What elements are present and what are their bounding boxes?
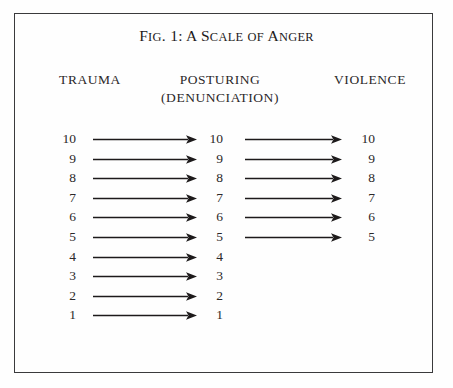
scale-row: 44 (0, 247, 453, 267)
trauma-value: 6 (54, 207, 76, 227)
arrow-posturing-to-violence (245, 188, 342, 208)
trauma-value: 5 (54, 227, 76, 247)
trauma-value: 8 (54, 168, 76, 188)
arrow-posturing-to-violence (245, 227, 342, 247)
posturing-value: 1 (201, 305, 223, 325)
posturing-value: 8 (201, 168, 223, 188)
arrow-trauma-to-posturing (93, 149, 197, 169)
trauma-value: 7 (54, 188, 76, 208)
arrow-posturing-to-violence (245, 168, 342, 188)
arrow-trauma-to-posturing (93, 129, 197, 149)
arrow-posturing-to-violence (245, 207, 342, 227)
arrow-trauma-to-posturing (93, 247, 197, 267)
arrow-trauma-to-posturing (93, 168, 197, 188)
arrow-trauma-to-posturing (93, 207, 197, 227)
scale-row: 11 (0, 305, 453, 325)
scale-row: 888 (0, 168, 453, 188)
arrow-posturing-to-violence (245, 129, 342, 149)
arrow-trauma-to-posturing (93, 286, 197, 306)
scale-row: 33 (0, 266, 453, 286)
posturing-value: 5 (201, 227, 223, 247)
posturing-value: 7 (201, 188, 223, 208)
scale-rows-container: 10101099988877766655544332211 (0, 0, 453, 388)
arrow-trauma-to-posturing (93, 188, 197, 208)
trauma-value: 9 (54, 149, 76, 169)
violence-value: 6 (353, 207, 375, 227)
trauma-value: 10 (54, 129, 76, 149)
trauma-value: 3 (54, 266, 76, 286)
posturing-value: 4 (201, 247, 223, 267)
violence-value: 7 (353, 188, 375, 208)
scale-row: 666 (0, 207, 453, 227)
posturing-value: 2 (201, 286, 223, 306)
scale-row: 555 (0, 227, 453, 247)
violence-value: 5 (353, 227, 375, 247)
trauma-value: 2 (54, 286, 76, 306)
arrow-trauma-to-posturing (93, 227, 197, 247)
scale-row: 101010 (0, 129, 453, 149)
posturing-value: 9 (201, 149, 223, 169)
posturing-value: 10 (201, 129, 223, 149)
scale-row: 777 (0, 188, 453, 208)
violence-value: 9 (353, 149, 375, 169)
scale-row: 999 (0, 149, 453, 169)
figure-container: FIG. 1: A SCALE OF ANGER TRAUMA POSTURIN… (0, 0, 453, 388)
violence-value: 8 (353, 168, 375, 188)
posturing-value: 6 (201, 207, 223, 227)
scale-row: 22 (0, 286, 453, 306)
arrow-trauma-to-posturing (93, 305, 197, 325)
posturing-value: 3 (201, 266, 223, 286)
arrow-trauma-to-posturing (93, 266, 197, 286)
violence-value: 10 (353, 129, 375, 149)
trauma-value: 1 (54, 305, 76, 325)
arrow-posturing-to-violence (245, 149, 342, 169)
trauma-value: 4 (54, 247, 76, 267)
